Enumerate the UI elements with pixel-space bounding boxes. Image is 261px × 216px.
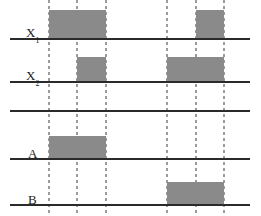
baseline-a (10, 158, 250, 160)
signal-label-b: B (28, 193, 37, 206)
baseline-b (10, 204, 250, 206)
timing-diagram: X1X2AB (0, 0, 261, 216)
baseline-x2 (10, 81, 250, 83)
pulse-x1-1 (49, 10, 106, 38)
signal-label-text-x1: X (26, 25, 36, 40)
signal-label-text-a: A (28, 146, 38, 161)
pulse-x2-1 (77, 57, 106, 81)
baseline-x1 (10, 38, 250, 40)
pulse-b-1 (167, 182, 224, 204)
signal-label-x1: X1 (26, 26, 40, 43)
signal-label-text-b: B (28, 192, 37, 207)
signal-label-subscript-x1: 1 (36, 36, 40, 45)
pulse-x2-2 (167, 57, 224, 81)
signal-label-x2: X2 (26, 69, 40, 86)
pulse-x1-2 (196, 10, 224, 38)
signal-label-text-x2: X (26, 68, 36, 83)
signal-label-subscript-x2: 2 (36, 79, 40, 88)
signal-label-a: A (28, 147, 38, 160)
baseline-blank (10, 110, 250, 112)
pulse-a-1 (49, 136, 106, 158)
